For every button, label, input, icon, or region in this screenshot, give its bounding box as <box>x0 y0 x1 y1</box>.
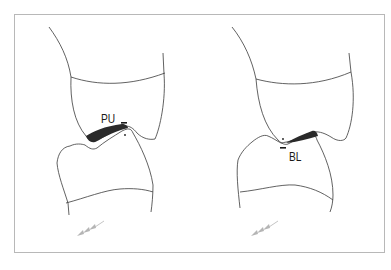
dental-diagram: PU BL <box>0 0 391 270</box>
left-direction-arrows-icon <box>77 221 104 236</box>
right-upper-tooth <box>232 27 353 144</box>
diagram-drawing <box>0 0 391 270</box>
right-contact-dot <box>282 138 284 140</box>
left-lower-tooth <box>57 129 153 215</box>
label-pu: PU <box>101 112 115 126</box>
left-contact-shade <box>86 124 128 142</box>
right-lower-tooth <box>237 135 333 212</box>
label-bl: BL <box>289 150 301 164</box>
right-direction-arrows-icon <box>251 221 278 236</box>
right-marker-dash <box>280 147 286 149</box>
right-contact-shade <box>286 131 318 143</box>
left-marker-dash <box>121 122 127 124</box>
left-contact-dot <box>124 134 126 136</box>
